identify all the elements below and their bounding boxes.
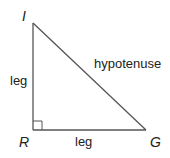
side-label-vertical-leg: leg (10, 73, 27, 88)
vertex-label-i: I (22, 8, 26, 24)
right-triangle-diagram: I R G leg leg hypotenuse (0, 0, 170, 158)
side-label-hypotenuse: hypotenuse (94, 56, 161, 71)
hypotenuse-line (33, 23, 146, 130)
side-label-horizontal-leg: leg (75, 134, 92, 149)
vertex-label-g: G (150, 134, 161, 150)
right-angle-marker (33, 121, 42, 130)
vertex-label-r: R (19, 134, 29, 150)
